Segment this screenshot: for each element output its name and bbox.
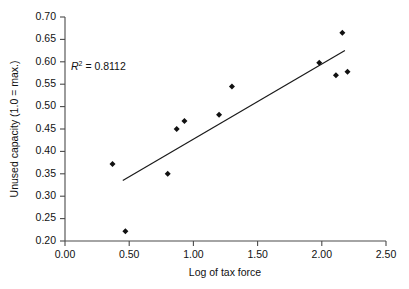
data-point	[339, 30, 345, 36]
x-tick-label: 0.50	[119, 248, 140, 260]
r-squared-value: = 0.8112	[83, 60, 126, 72]
x-tick-label: 1.00	[183, 248, 204, 260]
y-tick-label: 0.50	[36, 99, 57, 111]
y-tick-label: 0.45	[36, 122, 57, 134]
y-tick-label: 0.65	[36, 32, 57, 44]
y-tick-label: 0.60	[36, 55, 57, 67]
y-tick-label: 0.40	[36, 144, 57, 156]
x-tick-label: 0.00	[55, 248, 76, 260]
y-tick-label: 0.55	[36, 77, 57, 89]
y-tick-label: 0.35	[36, 167, 57, 179]
data-point	[229, 83, 235, 89]
y-tick-label: 0.20	[36, 234, 57, 246]
data-point	[344, 69, 350, 75]
y-axis-ticks: 0.200.250.300.350.400.450.500.550.600.65…	[36, 10, 65, 246]
data-point	[165, 171, 171, 177]
x-tick-label: 2.00	[312, 248, 333, 260]
data-point	[122, 228, 128, 234]
r-squared-annotation: R2 = 0.8112	[71, 60, 126, 72]
y-tick-label: 0.25	[36, 211, 57, 223]
y-tick-label: 0.70	[36, 10, 57, 22]
regression-line	[123, 51, 345, 181]
x-axis-ticks: 0.000.501.001.502.002.50	[55, 241, 397, 260]
chart-figure: 0.200.250.300.350.400.450.500.550.600.65…	[0, 0, 409, 289]
data-point	[174, 126, 180, 132]
data-point	[333, 72, 339, 78]
x-axis-title: Log of tax force	[189, 266, 262, 278]
data-point	[216, 112, 222, 118]
y-axis-title: Unused capacity (1.0 = max.)	[8, 61, 20, 198]
trend-line-group	[123, 51, 345, 181]
scatter-plot-svg: 0.200.250.300.350.400.450.500.550.600.65…	[0, 0, 409, 289]
x-tick-label: 1.50	[247, 248, 268, 260]
data-point	[181, 118, 187, 124]
y-tick-label: 0.30	[36, 189, 57, 201]
data-points-group	[110, 30, 351, 234]
data-point	[110, 161, 116, 167]
x-tick-label: 2.50	[376, 248, 397, 260]
